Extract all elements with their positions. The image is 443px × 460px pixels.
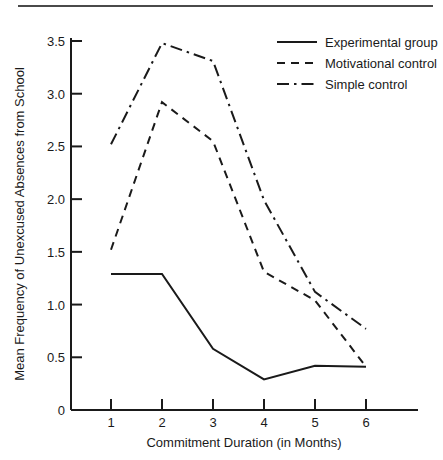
chart-figure: 00.51.01.52.02.53.03.5 123456 Commitment… xyxy=(0,0,443,460)
x-axis-ticks: 123456 xyxy=(107,399,369,430)
y-tick-label: 0.5 xyxy=(47,350,65,365)
x-tick-label: 2 xyxy=(158,415,165,430)
y-tick-label: 0 xyxy=(58,403,65,418)
y-tick-label: 2.0 xyxy=(47,192,65,207)
x-axis-title: Commitment Duration (in Months) xyxy=(146,435,341,450)
y-tick-label: 3.5 xyxy=(47,34,65,49)
series-line-dashed xyxy=(111,102,366,367)
series-line-solid xyxy=(111,274,366,379)
y-tick-label: 1.5 xyxy=(47,245,65,260)
y-tick-label: 3.0 xyxy=(47,87,65,102)
x-tick-label: 6 xyxy=(362,415,369,430)
legend-label: Simple control xyxy=(325,77,407,92)
chart-legend: Experimental groupMotivational controlSi… xyxy=(277,35,438,92)
legend-label: Experimental group xyxy=(325,35,438,50)
data-series-group xyxy=(111,43,366,379)
y-axis-ticks: 00.51.01.52.02.53.03.5 xyxy=(47,34,82,418)
x-tick-label: 4 xyxy=(260,415,267,430)
legend-label: Motivational control xyxy=(325,56,437,71)
x-tick-label: 3 xyxy=(209,415,216,430)
line-chart: 00.51.01.52.02.53.03.5 123456 Commitment… xyxy=(0,0,443,460)
y-axis-title: Mean Frequency of Unexcused Absences fro… xyxy=(12,67,27,381)
y-tick-label: 1.0 xyxy=(47,298,65,313)
x-tick-label: 1 xyxy=(107,415,114,430)
y-tick-label: 2.5 xyxy=(47,139,65,154)
x-tick-label: 5 xyxy=(311,415,318,430)
